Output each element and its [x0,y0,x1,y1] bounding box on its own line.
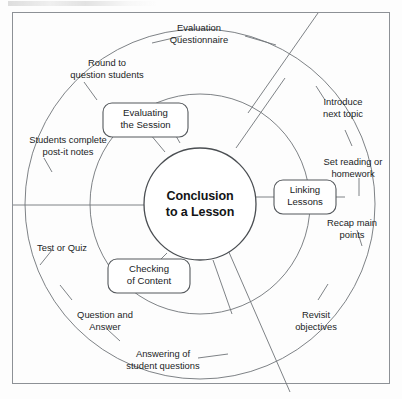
outer-label-test-or-quiz: Test or Quiz [37,242,87,253]
outer-label-qa-line1: Question and [77,309,133,320]
hub-label-line1: Conclusion [166,189,233,203]
outer-label-answering-line1: Answering of [136,348,191,359]
outer-label-qa-line2: Answer [89,321,120,332]
outer-label-evaluation-questionnaire-line1: Evaluation [177,22,221,33]
outer-label-round-line1: Round to [88,57,126,68]
outer-label-students-complete-post-it-notes: Students complete post-it notes [29,134,107,157]
node-label-linking-line2: Lessons [287,196,323,207]
outer-label-introduce-next-topic: Introduce next topic [323,96,363,119]
outer-label-answering-of-student-questions: Answering of student questions [126,348,200,371]
outer-label-introduce-line2: next topic [323,108,363,119]
outer-label-question-and-answer: Question and Answer [77,309,133,332]
leader-evaluation-questionnaire-right [245,36,276,45]
leader-answering-to-arc [198,354,228,358]
leader-revisit-objectives [318,284,328,300]
outer-label-evaluation-questionnaire: Evaluation Questionnaire [170,22,228,45]
outer-label-recap-line2: points [339,229,364,240]
outer-label-set-reading-or-homework: Set reading or homework [324,156,383,179]
outer-label-evaluation-questionnaire-line2: Questionnaire [170,34,228,45]
leader-round-to-question [84,82,97,100]
hub-circle [144,148,256,260]
spoke-s [213,260,232,314]
outer-label-setreading-line2: homework [331,168,375,179]
spoke-ne [236,78,285,148]
diagram-canvas: Conclusion to a Lesson Evaluating the Se… [0,0,402,399]
outer-label-postit-line1: Students complete [29,134,107,145]
outer-label-postit-line2: post-it notes [42,146,93,157]
outer-label-testquiz-line1: Test or Quiz [37,242,87,253]
leader-students-post-it [44,158,52,172]
outer-label-recap-main-points: Recap main points [327,217,377,240]
node-label-linking-line1: Linking [290,184,320,195]
outer-label-recap-line1: Recap main [327,217,377,228]
spoke-upper-right [248,13,318,113]
node-label-checking-line1: Checking [129,263,169,274]
hub-label-line2: to a Lesson [166,205,234,219]
outer-label-revisit-line2: objectives [295,321,337,332]
outer-label-revisit-line1: Revisit [302,309,331,320]
radial-lesson-conclusion-diagram: Conclusion to a Lesson Evaluating the Se… [0,0,402,399]
node-label-evaluating-line2: the Session [120,119,170,130]
node-checking-of-content[interactable]: Checking of Content [108,259,190,293]
outer-label-introduce-line1: Introduce [323,96,362,107]
node-evaluating-the-session[interactable]: Evaluating the Session [103,103,188,137]
node-linking-lessons[interactable]: Linking Lessons [274,180,336,214]
leader-question-and-answer [60,285,72,300]
spoke-se-long [228,250,290,392]
outer-label-round-to-question-students: Round to question students [70,57,144,80]
outer-label-revisit-objectives: Revisit objectives [295,309,337,332]
outer-label-setreading-line1: Set reading or [324,156,383,167]
outer-label-answering-line2: student questions [126,360,200,371]
node-label-evaluating-line1: Evaluating [123,107,168,118]
outer-label-round-line2: question students [70,69,144,80]
leader-introduce-down [345,130,352,146]
node-label-checking-line2: of Content [127,275,172,286]
